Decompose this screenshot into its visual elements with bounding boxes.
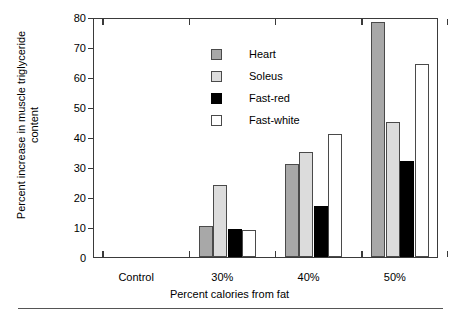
legend-label-heart: Heart [249, 48, 276, 61]
x-axis-tick-mark-bottom [102, 251, 103, 257]
legend-swatch-heart [211, 49, 222, 60]
bar-fast-white-50pct [415, 64, 429, 258]
x-axis-tick-label: 30% [187, 272, 257, 283]
bar-soleus-30pct [213, 185, 227, 257]
plot-area: Heart Soleus Fast-red Fast-white [93, 18, 438, 258]
x-axis-tick-mark-bottom [361, 251, 362, 257]
bar-fast-red-30pct [228, 229, 242, 258]
bar-soleus-40pct [299, 152, 313, 257]
figure: Percent increase in muscle triglyceride … [0, 0, 459, 318]
y-axis-tick-label: 30 [60, 163, 86, 174]
y-axis-tick-label: 0 [60, 253, 86, 264]
legend-swatch-fast-red [211, 93, 222, 104]
bar-fast-white-30pct [242, 230, 256, 257]
x-axis-tick-mark-bottom [447, 251, 448, 257]
y-axis-tick-label: 40 [60, 133, 86, 144]
x-axis-title: Percent calories from fat [0, 288, 459, 300]
x-axis-tick-mark-top [361, 19, 362, 25]
x-axis-tick-mark-bottom [275, 251, 276, 257]
legend-label-fast-red: Fast-red [249, 92, 290, 105]
bar-fast-red-50pct [400, 161, 414, 257]
bar-heart-50pct [371, 22, 385, 258]
legend-label-fast-white: Fast-white [249, 114, 300, 127]
y-axis-tick-label: 60 [60, 73, 86, 84]
y-axis-tick-label: 10 [60, 223, 86, 234]
y-axis-tick-label: 70 [60, 43, 86, 54]
x-axis-tick-mark-top [275, 19, 276, 25]
bar-soleus-50pct [386, 122, 400, 257]
x-axis-tick-mark-top [189, 19, 190, 25]
legend-label-soleus: Soleus [249, 70, 283, 83]
y-axis-tick-label: 80 [60, 13, 86, 24]
y-axis-tick-label: 50 [60, 103, 86, 114]
bar-heart-30pct [199, 226, 213, 258]
y-axis-tick-label: 20 [60, 193, 86, 204]
bar-fast-white-40pct [328, 134, 342, 257]
x-axis-tick-label: Control [101, 272, 171, 283]
x-axis-tick-label: 40% [274, 272, 344, 283]
x-axis-tick-label: 50% [360, 272, 430, 283]
x-axis-tick-mark-top [447, 19, 448, 25]
bar-heart-40pct [285, 164, 299, 257]
bottom-divider [18, 308, 443, 309]
bar-fast-red-40pct [314, 206, 328, 257]
y-axis-title: Percent increase in muscle triglyceride … [15, 20, 41, 230]
x-axis-tick-mark-bottom [189, 251, 190, 257]
x-axis-tick-mark-top [102, 19, 103, 25]
legend-swatch-fast-white [211, 115, 222, 126]
legend-swatch-soleus [211, 71, 222, 82]
